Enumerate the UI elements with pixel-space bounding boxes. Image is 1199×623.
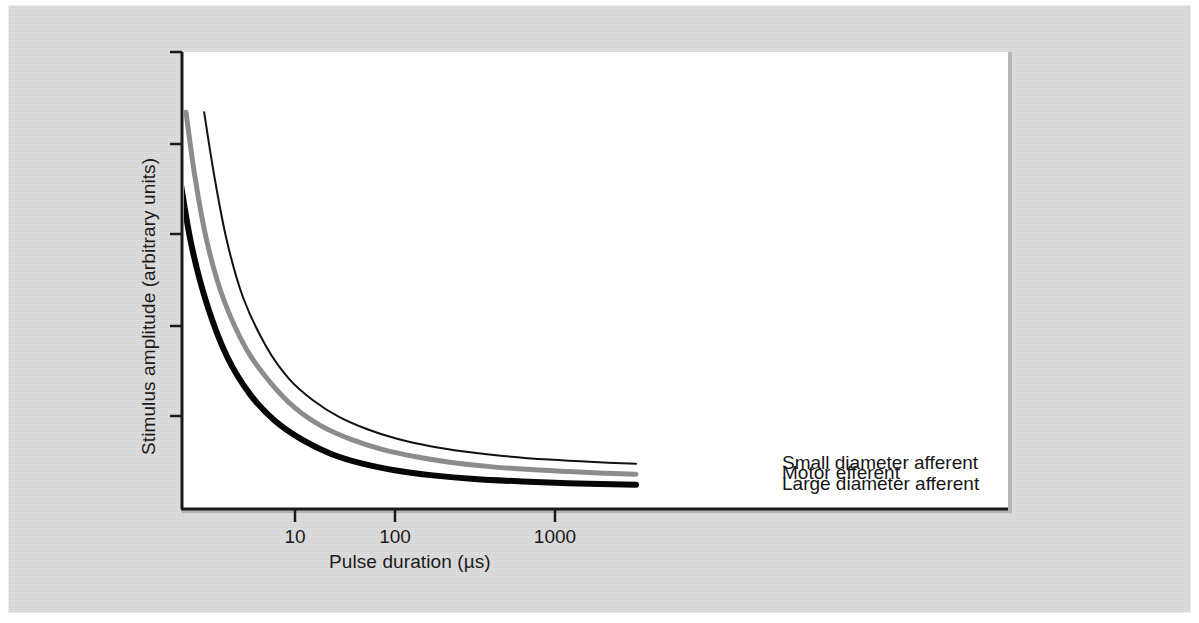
series-curve-2 [171,112,636,484]
figure-root: Stimulus amplitude (arbitrary units) Pul… [0,0,1199,623]
axis-ticks-group [170,52,555,522]
series-curve-0 [204,112,636,463]
y-axis-title: Stimulus amplitude (arbitrary units) [138,158,160,455]
data-series-group [171,112,636,484]
x-tick-label-10: 10 [284,526,305,548]
x-tick-label-1000: 1000 [534,526,576,548]
x-axis-title: Pulse duration (µs) [329,551,491,573]
x-tick-label-100: 100 [379,526,411,548]
series-label-2: Large diameter afferent [782,473,979,495]
chart-canvas [0,0,1199,623]
series-curve-1 [186,112,636,474]
